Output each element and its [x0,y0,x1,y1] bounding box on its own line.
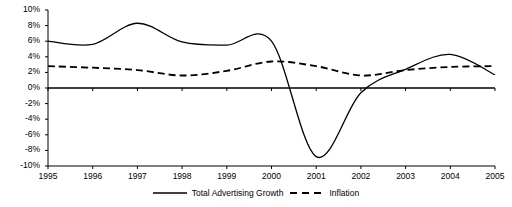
x-tick-label: 1996 [73,172,113,181]
y-tick-label: -2% [2,99,40,108]
series-line-1 [48,61,495,75]
chart-legend: Total Advertising GrowthInflation [0,184,512,202]
x-tick-label: 2004 [430,172,470,181]
x-tick-label: 1999 [207,172,247,181]
y-tick-label: -4% [2,114,40,123]
y-tick-label: 2% [2,67,40,76]
legend-label: Total Advertising Growth [192,188,284,198]
legend-label: Inflation [329,188,359,198]
y-tick-label: 4% [2,52,40,61]
advertising-growth-inflation-chart: 10%8%6%4%2%0%-2%-4%-6%-8%-10% 1995199619… [0,0,512,207]
x-tick-label: 2003 [386,172,426,181]
y-tick-label: -10% [2,161,40,170]
x-tick-label: 2002 [341,172,381,181]
y-tick-label: -6% [2,130,40,139]
x-tick-label: 1997 [117,172,157,181]
legend-entry: Total Advertising Growth [153,188,284,198]
legend-dashed-line-icon [290,188,324,198]
y-tick-label: 8% [2,21,40,30]
y-tick-label: 10% [2,5,40,14]
legend-solid-line-icon [153,188,187,198]
x-tick-label: 2005 [475,172,512,181]
y-tick-label: 6% [2,36,40,45]
x-tick-label: 1998 [162,172,202,181]
x-tick-label: 2001 [296,172,336,181]
y-tick-label: 0% [2,83,40,92]
x-tick-label: 1995 [28,172,68,181]
x-tick-label: 2000 [252,172,292,181]
y-tick-label: -8% [2,145,40,154]
legend-entry: Inflation [290,188,359,198]
